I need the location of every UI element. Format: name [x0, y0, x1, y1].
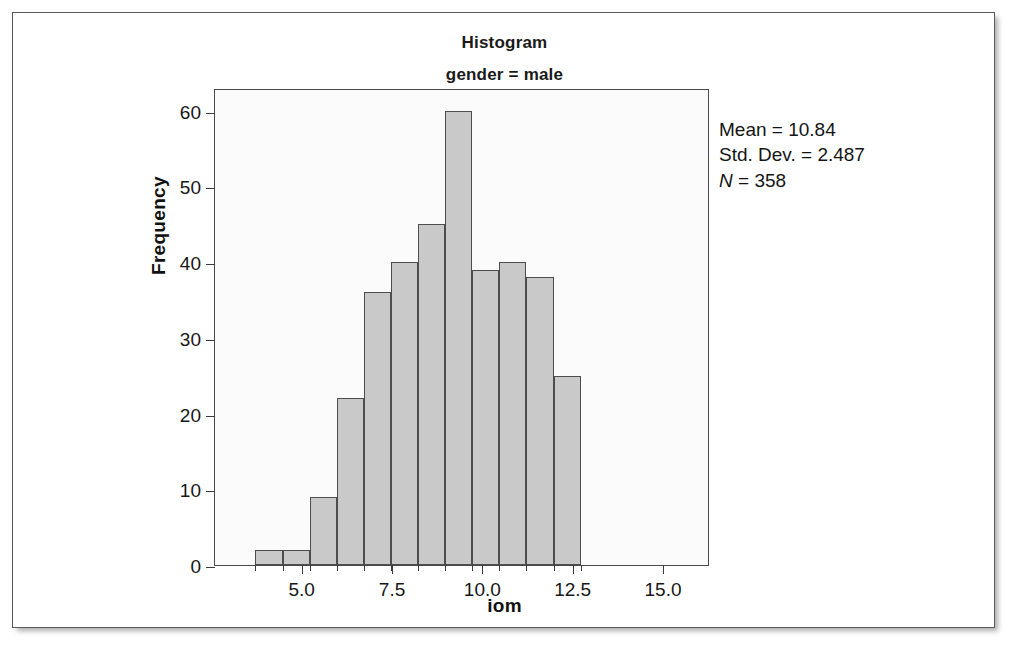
- stat-mean: Mean = 10.84: [719, 117, 865, 142]
- histogram-bar: [337, 398, 364, 565]
- histogram-bar: [283, 550, 310, 565]
- y-tick-label: 40: [141, 253, 201, 275]
- y-tick-label: 30: [141, 329, 201, 351]
- y-tick-mark: [206, 340, 215, 341]
- stat-n-symbol: N: [719, 170, 733, 191]
- histogram-bar: [526, 277, 553, 565]
- y-tick-mark: [206, 491, 215, 492]
- x-minor-tick-mark: [526, 565, 527, 571]
- y-tick-mark: [206, 264, 215, 265]
- histogram-bar: [391, 262, 418, 565]
- chart-subtitle: gender = male: [13, 65, 996, 85]
- histogram-bar: [418, 224, 445, 565]
- stat-std-dev: Std. Dev. = 2.487: [719, 142, 865, 167]
- y-tick-label: 0: [141, 556, 201, 578]
- x-tick-mark: [302, 565, 303, 574]
- x-minor-tick-mark: [255, 565, 256, 571]
- histogram-bar: [255, 550, 282, 565]
- chart-title: Histogram: [13, 33, 996, 53]
- x-tick-mark: [482, 565, 483, 574]
- stat-n: N = 358: [719, 168, 865, 193]
- x-minor-tick-mark: [337, 565, 338, 571]
- histogram-bars: [215, 90, 708, 565]
- histogram-bar: [364, 292, 391, 565]
- x-minor-tick-mark: [472, 565, 473, 571]
- y-tick-label: 10: [141, 480, 201, 502]
- x-minor-tick-mark: [418, 565, 419, 571]
- histogram-bar: [499, 262, 526, 565]
- y-tick-mark: [206, 113, 215, 114]
- x-minor-tick-mark: [581, 565, 582, 571]
- x-minor-tick-mark: [391, 565, 392, 571]
- plot-area: 0102030405060 5.07.510.012.515.0: [214, 89, 709, 566]
- figure-frame: Histogram gender = male Frequency 010203…: [12, 12, 995, 628]
- histogram-bar: [554, 376, 581, 565]
- y-tick-mark: [206, 567, 215, 568]
- histogram-bar: [310, 497, 337, 565]
- x-minor-tick-mark: [310, 565, 311, 571]
- statistics-annotation: Mean = 10.84 Std. Dev. = 2.487 N = 358: [719, 117, 865, 193]
- x-minor-tick-mark: [499, 565, 500, 571]
- x-axis-title: iom: [13, 595, 996, 617]
- x-tick-mark: [663, 565, 664, 574]
- y-tick-mark: [206, 416, 215, 417]
- histogram-bar: [472, 270, 499, 565]
- x-minor-tick-mark: [283, 565, 284, 571]
- stat-n-value: = 358: [733, 170, 786, 191]
- y-tick-label: 60: [141, 102, 201, 124]
- x-tick-mark: [392, 565, 393, 574]
- y-tick-mark: [206, 188, 215, 189]
- x-minor-tick-mark: [364, 565, 365, 571]
- x-minor-tick-mark: [554, 565, 555, 571]
- x-minor-tick-mark: [445, 565, 446, 571]
- y-tick-label: 50: [141, 177, 201, 199]
- y-tick-label: 20: [141, 405, 201, 427]
- x-tick-mark: [573, 565, 574, 574]
- histogram-bar: [445, 111, 472, 565]
